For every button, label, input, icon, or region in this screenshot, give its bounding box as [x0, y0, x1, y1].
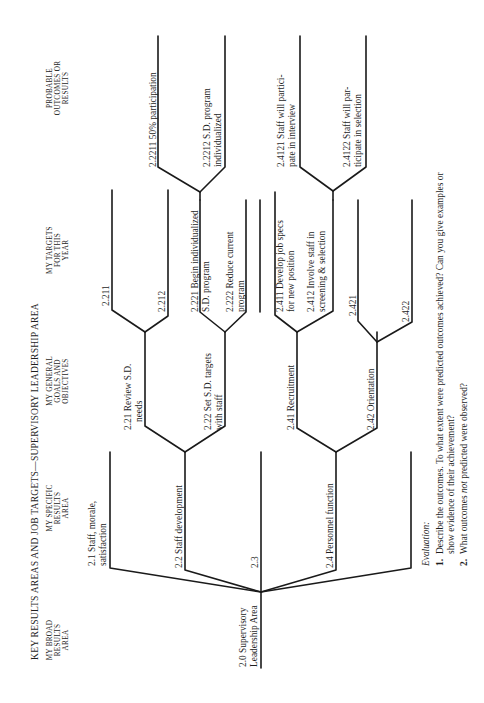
svg-text:OBJECTIVES: OBJECTIVES [62, 358, 70, 403]
svg-text:S.D. program: S.D. program [201, 261, 211, 312]
svg-text:2.42 Orientation: 2.42 Orientation [366, 368, 376, 430]
svg-text:AREA: AREA [62, 497, 70, 518]
svg-text:2.4 Personnel function: 2.4 Personnel function [325, 483, 335, 568]
svg-text:2.3: 2.3 [250, 556, 260, 568]
edge-2-421 [358, 200, 377, 342]
svg-text:RESULTS: RESULTS [62, 72, 70, 105]
node-2-4122: 2.4122 Staff will par- ticipate in selec… [342, 87, 363, 167]
svg-text:2.211: 2.211 [101, 285, 111, 306]
svg-text:MY TARGETS: MY TARGETS [46, 226, 54, 274]
svg-text:YEAR: YEAR [62, 240, 70, 261]
node-2-1: 2.1 Staff, morale, satisfaction [87, 501, 108, 566]
svg-text:2.1 Staff, morale,: 2.1 Staff, morale, [87, 501, 97, 566]
svg-text:2.21 Review S.D.: 2.21 Review S.D. [123, 364, 133, 430]
page-title: KEY RESULTS AREAS AND JOB TARGETS—SUPERV… [29, 303, 40, 660]
svg-text:2.422: 2.422 [401, 301, 411, 322]
svg-text:2.: 2. [459, 559, 469, 566]
svg-text:2.41 Recruitment: 2.41 Recruitment [286, 365, 296, 430]
edge-2-211 [112, 190, 145, 332]
node-2-422: 2.422 [401, 301, 411, 322]
header-outcomes: PROBABLE OUTCOMES OR RESULTS [46, 61, 70, 116]
svg-text:2.212: 2.212 [157, 291, 167, 312]
svg-text:AREA: AREA [62, 629, 70, 650]
evaluation-question-2: What outcomes not predicted were observe… [459, 383, 469, 554]
svg-text:screening & selection: screening & selection [317, 230, 327, 312]
svg-text:2.4121 Staff will partici-: 2.4121 Staff will partici- [276, 74, 286, 167]
svg-text:2.2212 S.D. program: 2.2212 S.D. program [202, 87, 212, 167]
edge-2-21 [145, 332, 185, 452]
svg-text:for new position: for new position [286, 250, 296, 312]
node-2-2211: 2.2211 50% participation [148, 72, 158, 167]
header-specific: MY SPECIFIC RESULTS AREA [46, 484, 70, 531]
svg-text:with staff: with staff [214, 394, 224, 430]
svg-text:needs: needs [134, 400, 144, 422]
edge-2-2211 [158, 36, 200, 192]
svg-text:pate in interview: pate in interview [287, 104, 297, 167]
node-2-4121: 2.4121 Staff will partici- pate in inter… [276, 74, 297, 167]
edge-2-4121 [300, 36, 333, 191]
node-2-222: 2.222 Reduce current program [225, 231, 246, 312]
node-2-3: 2.3 [250, 556, 260, 568]
node-2-212: 2.212 [157, 291, 167, 312]
evaluation-question-1: Describe the outcomes. To what extent we… [435, 172, 445, 554]
node-2-0: 2.0 Supervisory Leadership Area [238, 604, 259, 667]
svg-text:satisfaction: satisfaction [98, 523, 108, 566]
svg-text:Leadership Area: Leadership Area [249, 604, 259, 667]
node-2-41: 2.41 Recruitment [286, 365, 296, 430]
svg-text:GOALS AND: GOALS AND [54, 359, 62, 403]
svg-text:individualized: individualized [213, 113, 223, 167]
node-2-22: 2.22 Set S.D. targets with staff [203, 353, 224, 430]
svg-text:2.2211 50% participation: 2.2211 50% participation [148, 72, 158, 167]
node-2-421: 2.421 [348, 295, 358, 316]
header-targets: MY TARGETS FOR THIS YEAR [46, 226, 70, 274]
svg-text:2.222 Reduce current: 2.222 Reduce current [225, 231, 235, 312]
evaluation-block: Evaluation: 1. Describe the outcomes. To… [421, 172, 469, 567]
svg-text:2.412 Involve staff in: 2.412 Involve staff in [306, 231, 316, 312]
svg-text:2.421: 2.421 [348, 295, 358, 316]
svg-text:MY SPECIFIC: MY SPECIFIC [46, 484, 54, 531]
key-results-diagram: KEY RESULTS AREAS AND JOB TARGETS—SUPERV… [0, 0, 484, 703]
node-2-21: 2.21 Review S.D. needs [123, 364, 144, 430]
svg-text:MY GENERAL: MY GENERAL [46, 356, 54, 406]
node-2-411: 2.411 Develop job specs for new position [275, 220, 296, 312]
edge-2-2 [185, 452, 261, 592]
header-broad: MY BROAD RESULTS AREA [46, 620, 70, 661]
svg-text:show evidence of their achieve: show evidence of their achievement? [446, 415, 456, 554]
node-2-412: 2.412 Involve staff in screening & selec… [306, 230, 327, 312]
svg-text:2.2 Staff development: 2.2 Staff development [174, 485, 184, 568]
edge-2-41 [297, 332, 336, 452]
svg-text:2.0 Supervisory: 2.0 Supervisory [238, 607, 248, 667]
node-2-4: 2.4 Personnel function [325, 483, 335, 568]
svg-text:2.221 Begin individualized: 2.221 Begin individualized [190, 210, 200, 312]
svg-text:ticipate in selection: ticipate in selection [353, 94, 363, 167]
svg-text:PROBABLE: PROBABLE [46, 68, 54, 108]
svg-text:2.22 Set S.D. targets: 2.22 Set S.D. targets [203, 353, 213, 430]
svg-text:1.: 1. [435, 559, 445, 566]
node-2-42: 2.42 Orientation [366, 368, 376, 430]
svg-text:RESULTS: RESULTS [54, 624, 62, 657]
node-2-211: 2.211 [101, 285, 111, 306]
evaluation-heading: Evaluation: [421, 522, 431, 567]
svg-text:2.411 Develop job specs: 2.411 Develop job specs [275, 220, 285, 312]
title-group: KEY RESULTS AREAS AND JOB TARGETS—SUPERV… [29, 303, 40, 660]
svg-text:RESULTS: RESULTS [54, 492, 62, 525]
svg-text:FOR THIS: FOR THIS [54, 233, 62, 267]
svg-text:MY BROAD: MY BROAD [46, 620, 54, 661]
node-2-2212: 2.2212 S.D. program individualized [202, 87, 223, 167]
svg-text:OUTCOMES OR: OUTCOMES OR [54, 61, 62, 116]
node-2-2: 2.2 Staff development [174, 485, 184, 568]
header-goals: MY GENERAL GOALS AND OBJECTIVES [46, 356, 70, 406]
svg-text:2.4122 Staff will par-: 2.4122 Staff will par- [342, 87, 352, 167]
svg-text:program: program [236, 280, 246, 312]
